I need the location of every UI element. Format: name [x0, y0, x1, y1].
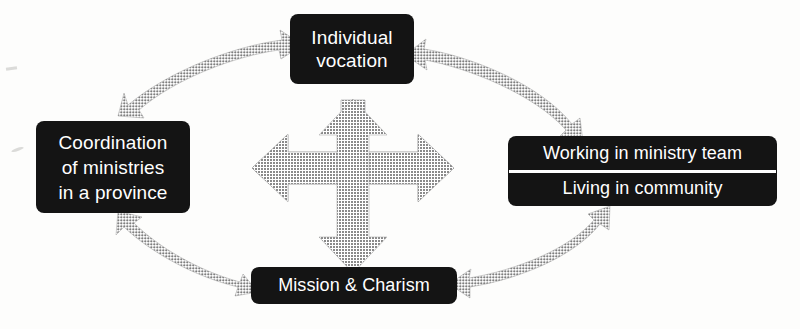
node-coordination-of-ministries: Coordination of ministries in a province: [37, 122, 189, 212]
node-coordination-line-3: in a province: [58, 180, 167, 205]
node-coordination-line-2: of ministries: [62, 155, 165, 180]
node-individual-vocation: Individual vocation: [291, 15, 413, 83]
node-coordination-line-1: Coordination: [59, 130, 168, 155]
node-ministry-team-and-community: Working in ministry team Living in commu…: [509, 137, 776, 205]
node-mission-and-charism: Mission & Charism: [252, 268, 456, 303]
node-individual-vocation-line-2: vocation: [316, 49, 388, 72]
paper-speck: [6, 66, 17, 71]
diagram-canvas: Individual vocation Coordination of mini…: [0, 0, 800, 329]
node-working-in-ministry-team: Working in ministry team: [509, 137, 776, 170]
center-cross-arrow-body: [252, 99, 454, 273]
node-living-in-community: Living in community: [509, 173, 776, 206]
node-individual-vocation-line-1: Individual: [311, 26, 392, 49]
paper-speck: [11, 146, 24, 153]
arrow-bottom-to-right: [449, 206, 610, 298]
arrow-left-to-top: [118, 30, 303, 118]
node-mission-and-charism-label: Mission & Charism: [278, 275, 430, 296]
arrow-top-to-right: [405, 39, 583, 142]
arrow-left-to-bottom: [116, 211, 258, 296]
center-cross-arrow: [252, 100, 454, 236]
